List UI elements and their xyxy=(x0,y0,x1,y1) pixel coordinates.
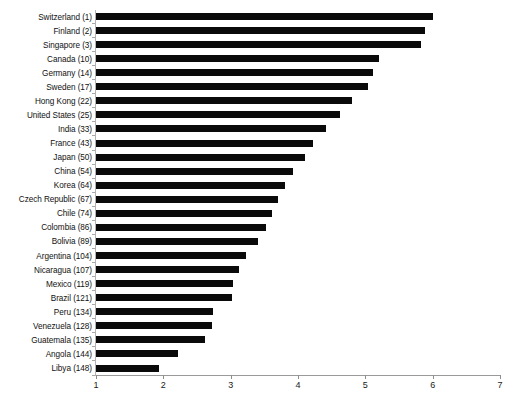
y-axis-tick xyxy=(92,304,95,305)
y-axis-tick xyxy=(92,346,95,347)
category-label: Peru (134) xyxy=(0,308,92,317)
category-label: Guatemala (135) xyxy=(0,336,92,345)
category-label: China (54) xyxy=(0,167,92,176)
x-axis-tick-label: 5 xyxy=(353,380,377,391)
y-axis-tick xyxy=(92,178,95,179)
y-axis-tick xyxy=(92,65,95,66)
category-label: Angola (144) xyxy=(0,350,92,359)
bar xyxy=(96,13,433,20)
category-label: Canada (10) xyxy=(0,55,92,64)
bar xyxy=(96,210,272,217)
x-axis-tick xyxy=(365,375,366,379)
category-label: Japan (50) xyxy=(0,153,92,162)
category-label: Germany (14) xyxy=(0,69,92,78)
bar xyxy=(96,294,232,301)
x-axis-tick xyxy=(500,375,501,379)
y-axis-tick xyxy=(92,150,95,151)
category-label: India (33) xyxy=(0,125,92,134)
x-axis-tick-label: 6 xyxy=(421,380,445,391)
category-label: Korea (64) xyxy=(0,181,92,190)
x-axis-tick-label: 3 xyxy=(219,380,243,391)
bar xyxy=(96,238,258,245)
y-axis-tick xyxy=(92,332,95,333)
category-label: Argentina (104) xyxy=(0,252,92,261)
y-axis-tick xyxy=(92,79,95,80)
x-axis-tick-label: 7 xyxy=(488,380,511,391)
y-axis-tick xyxy=(92,318,95,319)
category-label: United States (25) xyxy=(0,111,92,120)
category-label: Finland (2) xyxy=(0,27,92,36)
x-axis-tick xyxy=(433,375,434,379)
category-label: Singapore (3) xyxy=(0,41,92,50)
category-label: Colombia (86) xyxy=(0,223,92,232)
bar xyxy=(96,182,285,189)
category-label: Bolivia (89) xyxy=(0,237,92,246)
category-label: Brazil (121) xyxy=(0,294,92,303)
bar xyxy=(96,140,313,147)
y-axis-tick xyxy=(92,276,95,277)
y-axis-tick xyxy=(92,262,95,263)
x-axis-tick xyxy=(96,375,97,379)
category-label: Sweden (17) xyxy=(0,83,92,92)
y-axis-tick xyxy=(92,23,95,24)
bar xyxy=(96,365,159,372)
bar xyxy=(96,97,352,104)
y-axis-tick xyxy=(92,37,95,38)
category-label: Hong Kong (22) xyxy=(0,97,92,106)
bar xyxy=(96,111,340,118)
x-axis-tick xyxy=(298,375,299,379)
bar xyxy=(96,266,239,273)
y-axis-tick xyxy=(92,192,95,193)
bar xyxy=(96,322,212,329)
category-label: Libya (148) xyxy=(0,364,92,373)
category-label: France (43) xyxy=(0,139,92,148)
category-label: Venezuela (128) xyxy=(0,322,92,331)
x-axis-tick-label: 2 xyxy=(151,380,175,391)
bar xyxy=(96,168,293,175)
y-axis-tick xyxy=(92,51,95,52)
y-axis-tick xyxy=(92,375,95,376)
y-axis-tick xyxy=(92,248,95,249)
bar xyxy=(96,69,373,76)
plot-area xyxy=(96,10,500,375)
y-axis-tick xyxy=(92,164,95,165)
bar xyxy=(96,55,379,62)
bar xyxy=(96,41,421,48)
y-axis-tick xyxy=(92,234,95,235)
bar xyxy=(96,83,368,90)
y-axis-tick xyxy=(92,290,95,291)
bar-chart: Switzerland (1)Finland (2)Singapore (3)C… xyxy=(0,0,511,399)
category-label: Nicaragua (107) xyxy=(0,266,92,275)
y-axis-tick xyxy=(92,220,95,221)
bar xyxy=(96,308,213,315)
bar xyxy=(96,154,305,161)
bar xyxy=(96,125,326,132)
y-axis-tick xyxy=(92,93,95,94)
category-label: Chile (74) xyxy=(0,209,92,218)
bar xyxy=(96,350,178,357)
category-axis-labels: Switzerland (1)Finland (2)Singapore (3)C… xyxy=(0,10,92,375)
x-axis-tick xyxy=(163,375,164,379)
bar xyxy=(96,252,246,259)
y-axis-line xyxy=(95,10,96,376)
y-axis-tick xyxy=(92,107,95,108)
x-axis-tick-label: 1 xyxy=(84,380,108,391)
bar xyxy=(96,196,278,203)
bar xyxy=(96,224,266,231)
y-axis-tick xyxy=(92,206,95,207)
x-axis-tick xyxy=(231,375,232,379)
bar xyxy=(96,27,425,34)
category-label: Switzerland (1) xyxy=(0,13,92,22)
category-label: Czech Republic (67) xyxy=(0,195,92,204)
bar xyxy=(96,336,205,343)
y-axis-tick xyxy=(92,360,95,361)
y-axis-tick xyxy=(92,121,95,122)
category-label: Mexico (119) xyxy=(0,280,92,289)
y-axis-tick xyxy=(92,135,95,136)
bar xyxy=(96,280,233,287)
x-axis-tick-label: 4 xyxy=(286,380,310,391)
